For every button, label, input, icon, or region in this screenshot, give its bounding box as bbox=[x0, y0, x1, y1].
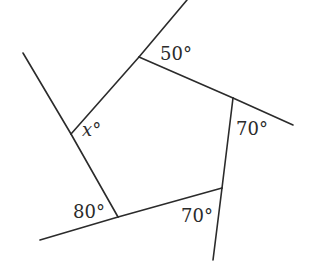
ray-left bbox=[23, 53, 71, 134]
angle-label-bottom-left: 80° bbox=[73, 201, 105, 222]
side-right-bottom-right bbox=[222, 98, 233, 188]
angle-label-left-unknown: x° bbox=[82, 119, 101, 140]
pentagon-exterior-angles-diagram: 50° 70° 70° 80° x° bbox=[0, 0, 310, 271]
ray-bottom-right bbox=[213, 188, 222, 260]
angle-label-bottom-right: 70° bbox=[181, 205, 213, 226]
angle-label-top: 50° bbox=[160, 43, 192, 64]
angle-label-right: 70° bbox=[236, 118, 268, 139]
